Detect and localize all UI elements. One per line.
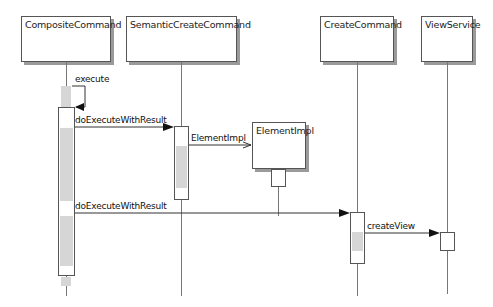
message-label-element-impl: ElementImpl bbox=[191, 133, 246, 143]
message-label-do-execute-with-result-1: doExecuteWithResult bbox=[75, 115, 167, 125]
message-label-do-execute-with-result-2: doExecuteWithResult bbox=[75, 201, 167, 211]
message-label-execute: execute bbox=[75, 74, 109, 84]
execute-self-call-arrow bbox=[72, 86, 85, 111]
message-label-create-view: createView bbox=[367, 221, 415, 231]
message-arrows bbox=[0, 0, 493, 307]
